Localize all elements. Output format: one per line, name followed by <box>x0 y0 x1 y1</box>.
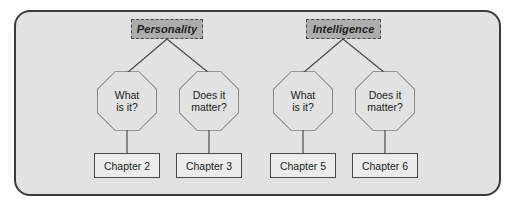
chapter-box-5-label: Chapter 5 <box>280 160 326 172</box>
question-node-personality-what: What is it? <box>98 72 156 130</box>
question-line-2: matter? <box>367 101 403 113</box>
chapter-box-3: Chapter 3 <box>176 153 242 178</box>
diagram-panel <box>14 10 501 196</box>
group-header-personality-label: Personality <box>137 23 197 35</box>
question-line-2: matter? <box>191 101 227 113</box>
group-header-intelligence: Intelligence <box>306 19 381 39</box>
chapter-box-3-label: Chapter 3 <box>186 160 232 172</box>
group-header-personality: Personality <box>131 19 203 39</box>
chapter-box-6: Chapter 6 <box>352 153 418 178</box>
group-header-intelligence-label: Intelligence <box>313 23 375 35</box>
question-line-1: What <box>115 89 140 101</box>
chapter-box-2-label: Chapter 2 <box>104 160 150 172</box>
chapter-box-5: Chapter 5 <box>270 153 336 178</box>
question-line-1: Does it <box>191 89 227 101</box>
question-line-1: What <box>291 89 316 101</box>
chapter-box-2: Chapter 2 <box>94 153 160 178</box>
question-node-intelligence-what: What is it? <box>274 72 332 130</box>
diagram-root: Personality Intelligence What is it? Doe… <box>0 0 517 208</box>
question-node-personality-matter: Does it matter? <box>180 72 238 130</box>
question-line-1: Does it <box>367 89 403 101</box>
question-line-2: is it? <box>115 101 140 113</box>
question-line-2: is it? <box>291 101 316 113</box>
question-node-intelligence-matter: Does it matter? <box>356 72 414 130</box>
chapter-box-6-label: Chapter 6 <box>362 160 408 172</box>
